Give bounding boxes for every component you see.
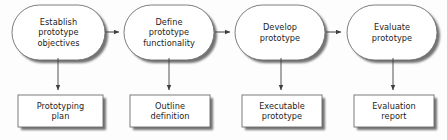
stage-shape-develop-prototype[interactable] — [235, 5, 325, 60]
prototyping-process-diagram: Establish prototype objectives Define pr… — [0, 0, 447, 140]
artifact-shape-evaluation-report[interactable] — [354, 95, 434, 127]
stage-shape-establish-prototype-objectives[interactable] — [12, 5, 105, 60]
artifact-shapes — [18, 95, 434, 127]
artifact-shape-executable-prototype[interactable] — [242, 95, 322, 127]
output-arrows — [58, 58, 393, 90]
artifact-shape-prototyping-plan[interactable] — [18, 95, 103, 127]
diagram-canvas — [0, 0, 447, 140]
stage-shape-evaluate-prototype[interactable] — [347, 5, 437, 60]
stage-shape-define-prototype-functionality[interactable] — [124, 5, 214, 60]
artifact-shape-outline-definition[interactable] — [130, 95, 210, 127]
